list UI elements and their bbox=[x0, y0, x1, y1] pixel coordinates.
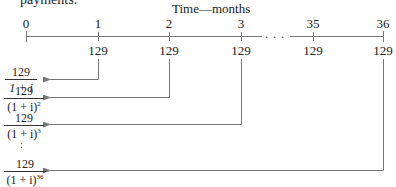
pv-numerator: 129 bbox=[4, 112, 44, 126]
pv-numerator: 129 bbox=[5, 66, 37, 80]
pv-fraction-36: 129 (1 + i)36 bbox=[4, 158, 46, 186]
discount-arrow-36 bbox=[50, 59, 384, 171]
pv-numerator: 129 bbox=[4, 158, 46, 172]
pv-numerator: 129 bbox=[4, 85, 44, 99]
discount-arrow-3 bbox=[50, 59, 242, 125]
discount-arrow-2 bbox=[50, 59, 170, 98]
pv-fraction-3: 129 (1 + i)3 bbox=[4, 112, 44, 140]
pv-denominator: (1 + i)36 bbox=[4, 172, 46, 186]
pv-fraction-2: 129 (1 + i)2 bbox=[4, 85, 44, 113]
pv-denominator: (1 + i)3 bbox=[4, 126, 44, 140]
timeline-diagram bbox=[0, 0, 396, 187]
discount-arrow-1 bbox=[50, 59, 99, 80]
vertical-ellipsis: : bbox=[20, 142, 23, 148]
